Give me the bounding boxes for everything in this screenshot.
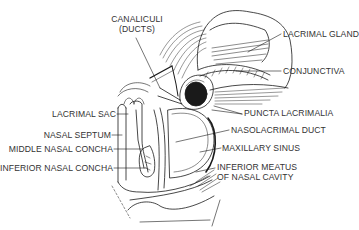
label-lacrimal-gland: LACRIMAL GLAND xyxy=(283,29,359,39)
orbit-region xyxy=(160,11,292,104)
label-maxillary-sinus: MAXILLARY SINUS xyxy=(222,143,300,153)
label-nasolacrimal-duct: NASOLACRIMAL DUCT xyxy=(231,125,326,135)
label-conjunctiva: CONJUNCTIVA xyxy=(283,66,345,76)
label-inferior-meatus: INFERIOR MEATUS xyxy=(217,162,297,172)
nasal-cavity xyxy=(112,101,220,226)
label-inferior-nasal-concha: INFERIOR NASAL CONCHA xyxy=(0,163,113,173)
label-canaliculi-ducts: (DUCTS) xyxy=(106,24,168,34)
canaliculi xyxy=(150,66,182,104)
eyeball xyxy=(180,75,213,109)
label-lacrimal-sac: LACRIMAL SAC xyxy=(0,109,116,119)
label-canaliculi: CANALICULI xyxy=(106,14,168,24)
label-middle-nasal-concha: MIDDLE NASAL CONCHA xyxy=(0,144,113,154)
label-puncta-lacrimalia: PUNCTA LACRIMALIA xyxy=(244,108,333,118)
label-of-nasal-cavity: OF NASAL CAVITY xyxy=(217,172,293,182)
label-nasal-septum: NASAL SEPTUM xyxy=(0,130,111,140)
